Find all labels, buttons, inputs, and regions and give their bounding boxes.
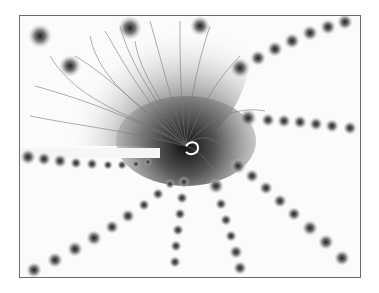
fractal-image: [20, 16, 361, 278]
fractal-image-frame: [19, 15, 361, 278]
